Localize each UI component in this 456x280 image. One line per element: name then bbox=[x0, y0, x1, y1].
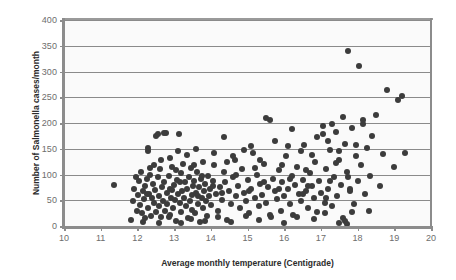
data-point bbox=[327, 178, 333, 184]
data-point bbox=[137, 202, 143, 208]
data-point bbox=[222, 179, 228, 185]
gridline-y-400 bbox=[64, 20, 431, 21]
data-point bbox=[239, 166, 245, 172]
data-point bbox=[391, 164, 397, 170]
data-point bbox=[246, 188, 252, 194]
data-point bbox=[259, 192, 265, 198]
data-point bbox=[191, 178, 197, 184]
x-axis-tick-labels: 1011121314151617181920 bbox=[64, 233, 431, 247]
data-point bbox=[161, 130, 167, 136]
plot-frame-right bbox=[430, 18, 432, 228]
x-tick-label-18: 18 bbox=[352, 233, 362, 243]
data-point bbox=[191, 162, 197, 168]
data-point bbox=[347, 186, 353, 192]
data-point bbox=[257, 157, 263, 163]
data-point bbox=[311, 195, 317, 201]
x-tick-label-20: 20 bbox=[426, 233, 436, 243]
data-point bbox=[384, 87, 390, 93]
data-point bbox=[316, 178, 322, 184]
data-point bbox=[311, 216, 317, 222]
data-point bbox=[323, 166, 329, 172]
data-point bbox=[173, 167, 179, 173]
data-point bbox=[272, 138, 278, 144]
data-point bbox=[351, 201, 357, 207]
gridline-y-100 bbox=[64, 175, 431, 176]
data-point bbox=[241, 147, 247, 153]
data-point bbox=[111, 182, 117, 188]
data-point bbox=[155, 174, 161, 180]
data-point bbox=[147, 165, 153, 171]
data-point bbox=[128, 217, 134, 223]
data-point bbox=[226, 188, 232, 194]
data-point bbox=[245, 177, 251, 183]
data-point bbox=[208, 202, 214, 208]
data-point bbox=[192, 210, 198, 216]
data-point bbox=[318, 190, 324, 196]
y-tick-label-50: 50 bbox=[47, 195, 57, 205]
data-point bbox=[235, 183, 241, 189]
data-point bbox=[157, 166, 163, 172]
data-point bbox=[187, 198, 193, 204]
data-point bbox=[305, 205, 311, 211]
data-point bbox=[145, 145, 151, 151]
data-point bbox=[193, 146, 199, 152]
data-point bbox=[369, 133, 375, 139]
x-tick-label-14: 14 bbox=[206, 233, 216, 243]
x-tick-mark-14 bbox=[211, 227, 213, 231]
data-point bbox=[263, 200, 269, 206]
data-point bbox=[221, 169, 227, 175]
data-point bbox=[140, 219, 146, 225]
data-point bbox=[183, 203, 189, 209]
data-point bbox=[177, 179, 183, 185]
data-point bbox=[131, 186, 137, 192]
data-point bbox=[243, 198, 249, 204]
data-point bbox=[334, 193, 340, 199]
data-point bbox=[158, 214, 164, 220]
x-tick-label-11: 11 bbox=[96, 233, 106, 243]
data-point bbox=[287, 201, 293, 207]
data-point bbox=[309, 152, 315, 158]
data-point bbox=[322, 200, 328, 206]
data-point bbox=[279, 179, 285, 185]
data-point bbox=[265, 184, 271, 190]
data-point bbox=[298, 148, 304, 154]
data-point bbox=[206, 193, 212, 199]
data-point bbox=[270, 176, 276, 182]
data-point bbox=[130, 198, 136, 204]
data-point bbox=[224, 159, 230, 165]
y-tick-mark-200 bbox=[60, 123, 64, 125]
data-point bbox=[279, 162, 285, 168]
data-point bbox=[177, 200, 183, 206]
data-point bbox=[210, 183, 216, 189]
data-point bbox=[263, 115, 269, 121]
data-point bbox=[367, 173, 373, 179]
data-point bbox=[342, 141, 348, 147]
y-tick-mark-350 bbox=[60, 46, 64, 48]
data-point bbox=[294, 164, 300, 170]
data-point bbox=[402, 150, 408, 156]
data-point bbox=[298, 198, 304, 204]
y-tick-mark-100 bbox=[60, 175, 64, 177]
data-point bbox=[152, 187, 158, 193]
y-tick-mark-400 bbox=[60, 20, 64, 22]
data-point bbox=[256, 217, 262, 223]
data-point bbox=[336, 148, 342, 154]
data-point bbox=[377, 183, 383, 189]
x-tick-mark-11 bbox=[101, 227, 103, 231]
data-point bbox=[254, 172, 260, 178]
data-point bbox=[399, 93, 405, 99]
data-point bbox=[278, 208, 284, 214]
data-point bbox=[166, 214, 172, 220]
data-point bbox=[303, 167, 309, 173]
x-tick-mark-12 bbox=[137, 227, 139, 231]
gridline-y-250 bbox=[64, 97, 431, 98]
data-point bbox=[333, 160, 339, 166]
data-point bbox=[158, 157, 164, 163]
data-point bbox=[178, 209, 184, 215]
data-point bbox=[276, 186, 282, 192]
data-point bbox=[345, 174, 351, 180]
x-tick-mark-15 bbox=[248, 227, 250, 231]
data-point bbox=[364, 145, 370, 151]
data-point bbox=[228, 219, 234, 225]
data-point bbox=[237, 205, 243, 211]
